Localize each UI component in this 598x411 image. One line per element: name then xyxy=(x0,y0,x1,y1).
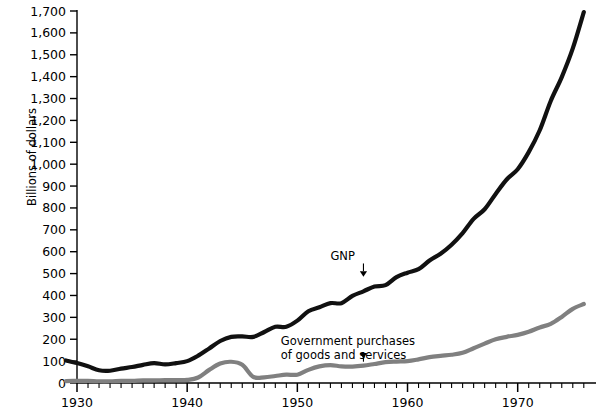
chart-container: Billions of dollars 01002003004005006007… xyxy=(0,0,598,411)
y-axis-title: Billions of dollars xyxy=(25,97,39,217)
annotation-label-government: Government purchases xyxy=(281,334,415,348)
x-tick-label: 1950 xyxy=(281,395,313,410)
y-tick-label: 400 xyxy=(42,288,66,303)
y-tick-label: 0 xyxy=(58,376,66,391)
annotations-group: GNPGovernment purchasesof goods and serv… xyxy=(281,249,415,361)
annotation-label-government: of goods and services xyxy=(281,348,407,362)
y-tick-label: 1,700 xyxy=(30,4,66,19)
x-tick-label: 1940 xyxy=(171,395,203,410)
series-line-gnp xyxy=(66,12,584,371)
y-tick-label: 500 xyxy=(42,266,66,281)
annotation-arrow-head xyxy=(360,271,367,277)
y-tick-label: 600 xyxy=(42,244,66,259)
y-tick-label: 700 xyxy=(42,222,66,237)
y-tick-label: 800 xyxy=(42,200,66,215)
y-tick-label: 300 xyxy=(42,310,66,325)
y-tick-label: 900 xyxy=(42,179,66,194)
x-tick-label: 1970 xyxy=(502,395,534,410)
y-tick-label: 1,600 xyxy=(30,25,66,40)
annotation-label-gnp: GNP xyxy=(330,249,355,263)
x-axis-ticks: 19301940195019601970 xyxy=(61,383,584,410)
y-tick-label: 200 xyxy=(42,332,66,347)
data-series-group xyxy=(66,12,584,381)
x-tick-label: 1960 xyxy=(392,395,424,410)
x-tick-label: 1930 xyxy=(61,395,93,410)
y-tick-label: 1,400 xyxy=(30,69,66,84)
y-tick-label: 100 xyxy=(42,354,66,369)
line-chart: 01002003004005006007008009001,0001,1001,… xyxy=(0,0,598,411)
y-tick-label: 1,500 xyxy=(30,47,66,62)
